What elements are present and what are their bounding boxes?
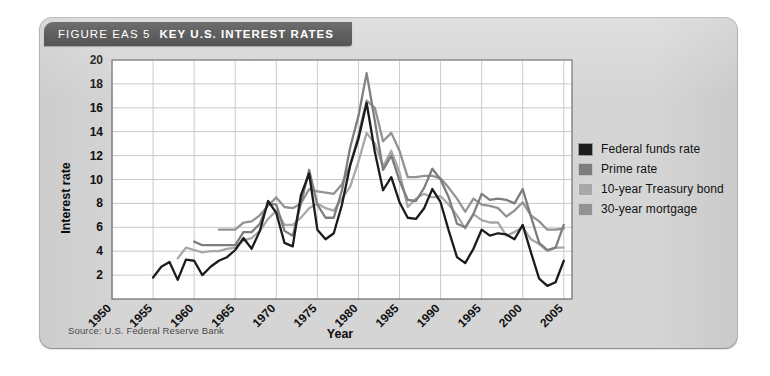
x-tick-1995: 1995	[455, 301, 484, 330]
y-tick-12: 12	[90, 149, 104, 163]
legend-swatch-icon	[578, 203, 593, 216]
legend-label: 30-year mortgage	[601, 202, 697, 216]
source-note: Source: U.S. Federal Reserve Bank	[68, 325, 224, 336]
legend-item-federal-funds-rate[interactable]: Federal funds rate	[578, 142, 724, 156]
legend-item-prime-rate[interactable]: Prime rate	[578, 162, 724, 176]
x-tick-1980: 1980	[332, 301, 361, 330]
y-tick-16: 16	[90, 101, 104, 115]
legend-item-30-year-mortgage[interactable]: 30-year mortgage	[578, 202, 724, 216]
legend-label: Prime rate	[601, 162, 657, 176]
x-tick-1985: 1985	[373, 301, 402, 330]
figure-card: FIGURE EAS 5 KEY U.S. INTEREST RATES 246…	[40, 18, 737, 348]
y-tick-18: 18	[90, 77, 104, 91]
y-tick-20: 20	[90, 53, 104, 67]
x-tick-1990: 1990	[414, 301, 443, 330]
x-tick-2000: 2000	[496, 301, 525, 330]
legend-swatch-icon	[578, 183, 593, 196]
figure-number-label: FIGURE EAS 5	[58, 28, 150, 40]
y-tick-2: 2	[96, 268, 103, 282]
legend-label: 10-year Treasury bond	[601, 182, 724, 196]
y-axis-tick-labels: 2468101214161820	[90, 53, 104, 282]
y-tick-4: 4	[96, 244, 103, 258]
chart-region: 2468101214161820 19501955196019651970197…	[40, 48, 737, 348]
y-tick-14: 14	[90, 125, 104, 139]
figure-title-bar: FIGURE EAS 5 KEY U.S. INTEREST RATES	[44, 22, 352, 46]
figure-title: KEY U.S. INTEREST RATES	[159, 28, 334, 40]
chart-legend: Federal funds ratePrime rate10-year Trea…	[578, 142, 724, 216]
y-axis-title: Interest rate	[59, 162, 73, 234]
legend-item-10-year-treasury-bond[interactable]: 10-year Treasury bond	[578, 182, 724, 196]
legend-label: Federal funds rate	[601, 142, 700, 156]
x-tick-1975: 1975	[291, 301, 320, 330]
x-tick-1970: 1970	[250, 301, 279, 330]
x-axis-title: Year	[327, 327, 354, 341]
y-tick-8: 8	[96, 196, 103, 210]
y-tick-10: 10	[90, 173, 104, 187]
x-tick-2005: 2005	[537, 301, 566, 330]
y-tick-6: 6	[96, 220, 103, 234]
legend-swatch-icon	[578, 163, 593, 176]
legend-swatch-icon	[578, 143, 593, 156]
